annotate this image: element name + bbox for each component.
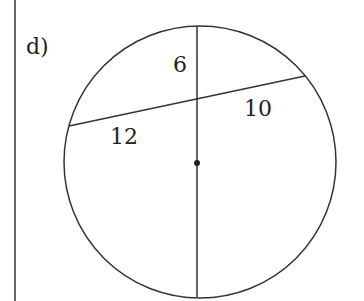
segment-label-left-slant: 12 [110,124,138,149]
center-point [194,160,200,166]
segment-label-upper-vertical: 6 [173,52,187,77]
segment-label-right-slant: 10 [244,96,272,121]
circle-chords-diagram: d) 6 10 12 [0,0,364,301]
circle [64,26,336,298]
problem-label: d) [26,34,49,59]
